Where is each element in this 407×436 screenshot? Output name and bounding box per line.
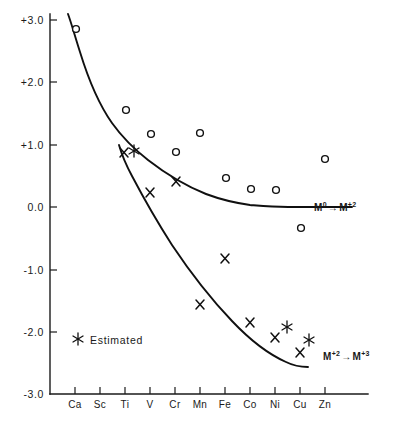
data-point-circle-ni <box>273 187 280 194</box>
curve-lower-m2-to-m3 <box>119 145 308 367</box>
data-point-x-co <box>246 318 254 327</box>
data-point-circle-fe <box>223 175 230 182</box>
y-tick-label-2: +2.0 <box>21 76 44 88</box>
data-point-star-cu <box>304 334 314 346</box>
data-point-x-cu <box>296 348 304 357</box>
x-tick-label-v: V <box>146 399 153 410</box>
series-label-upper-arrow: → <box>328 202 338 213</box>
data-point-x-v <box>146 188 154 197</box>
y-tick-label-3: +3.0 <box>21 14 44 26</box>
figure-container: +3.0 +2.0 +1.0 0.0 -1.0 -2.0 -3.0 Ca Sc <box>0 0 407 436</box>
data-point-circle-co <box>248 186 255 193</box>
data-point-circle-v <box>148 131 155 138</box>
y-ticks-group <box>50 20 57 332</box>
series-label-upper-sup: 0 <box>323 201 327 208</box>
data-point-circle-zn <box>322 156 329 163</box>
x-tick-labels-group: Ca Sc Ti V Cr Mn Fe Co Ni Cu Zn <box>68 399 331 410</box>
y-tick-label-neg1: -1.0 <box>24 264 45 276</box>
series-label-lower-base2: M <box>353 351 362 362</box>
x-tick-label-zn: Zn <box>319 399 331 410</box>
series-label-lower: M+2→M+3 <box>323 350 370 362</box>
data-point-x-mn <box>196 300 204 309</box>
y-tick-label-1: +1.0 <box>21 139 44 151</box>
series-label-upper-sup2: +2 <box>348 201 357 208</box>
series-label-lower-arrow: → <box>341 351 351 362</box>
star-icon <box>73 333 83 345</box>
x-tick-label-cr: Cr <box>169 399 181 410</box>
data-point-circle-ti <box>123 107 130 114</box>
series-label-upper-base: M <box>314 202 323 213</box>
data-point-star-ni <box>282 321 292 333</box>
data-point-x-ni <box>271 333 279 342</box>
y-tick-label-0: 0.0 <box>28 201 44 213</box>
series-label-upper-base2: M <box>339 202 348 213</box>
data-point-circle-mn <box>197 130 204 137</box>
series-estimated-markers <box>129 145 314 346</box>
x-tick-label-co: Co <box>243 399 257 410</box>
y-tick-labels-group: +3.0 +2.0 +1.0 0.0 -1.0 -2.0 -3.0 <box>21 14 44 400</box>
y-tick-label-neg2: -2.0 <box>24 326 45 338</box>
x-tick-label-sc: Sc <box>94 399 106 410</box>
series-label-upper: M0→M+2 <box>314 201 356 213</box>
series-label-lower-sup: +2 <box>332 350 341 357</box>
x-tick-label-mn: Mn <box>193 399 208 410</box>
x-tick-label-ni: Ni <box>270 399 280 410</box>
series-upper-markers <box>73 26 329 232</box>
x-tick-label-fe: Fe <box>219 399 232 410</box>
svg-text:M0→M+2: M0→M+2 <box>314 201 356 213</box>
x-ticks-group <box>75 387 325 394</box>
data-point-circle-cu <box>298 225 305 232</box>
data-point-circle-cr <box>173 149 180 156</box>
legend-estimated: Estimated <box>73 333 143 346</box>
svg-text:M+2→M+3: M+2→M+3 <box>323 350 370 362</box>
data-point-circle-ca <box>73 26 80 33</box>
legend-estimated-label: Estimated <box>90 334 143 346</box>
series-label-lower-base: M <box>323 351 332 362</box>
x-tick-label-ti: Ti <box>121 399 130 410</box>
series-lower-markers <box>120 148 304 357</box>
x-tick-label-cu: Cu <box>293 399 307 410</box>
data-point-x-fe <box>221 254 229 263</box>
y-tick-label-neg3: -3.0 <box>24 388 45 400</box>
chart-canvas: +3.0 +2.0 +1.0 0.0 -1.0 -2.0 -3.0 Ca Sc <box>0 0 407 436</box>
series-label-lower-sup2: +3 <box>361 350 370 357</box>
x-tick-label-ca: Ca <box>68 399 82 410</box>
curve-upper-m0-to-m2 <box>68 14 352 207</box>
